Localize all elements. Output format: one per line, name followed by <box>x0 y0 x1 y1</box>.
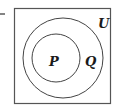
venn-diagram: U P Q <box>0 0 119 109</box>
set-p-label: P <box>48 54 60 69</box>
set-q-label: Q <box>85 54 97 69</box>
universe-label: U <box>98 16 110 31</box>
